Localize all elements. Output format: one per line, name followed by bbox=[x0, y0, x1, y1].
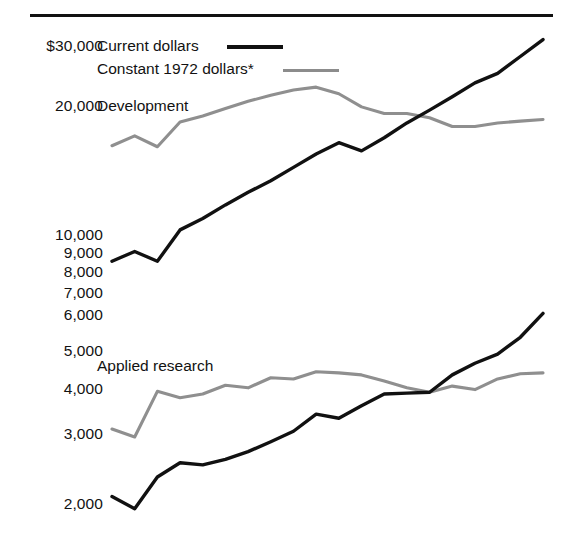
y-tick-7000: 7,000 bbox=[0, 285, 103, 301]
y-tick-2000: 2,000 bbox=[0, 496, 103, 512]
y-tick-5000: 5,000 bbox=[0, 343, 103, 359]
y-tick-3000: 3,000 bbox=[0, 426, 103, 442]
line-applied-current bbox=[112, 313, 543, 508]
legend-swatch-constant-dollars bbox=[283, 69, 339, 72]
y-tick-10000: 10,000 bbox=[0, 227, 103, 243]
y-tick-30000: $30,000 bbox=[0, 38, 103, 54]
y-tick-9000: 9,000 bbox=[0, 245, 103, 261]
y-tick-20000: 20,000 bbox=[0, 98, 103, 114]
legend-label-current-dollars: Current dollars bbox=[97, 38, 199, 54]
top-rule-divider bbox=[30, 14, 553, 17]
line-applied-constant bbox=[112, 372, 543, 437]
panel-label-development: Development bbox=[97, 98, 188, 114]
y-tick-6000: 6,000 bbox=[0, 307, 103, 323]
chart-figure: $30,000 20,000 10,000 9,000 8,000 7,000 … bbox=[0, 0, 563, 552]
y-tick-8000: 8,000 bbox=[0, 264, 103, 280]
y-tick-4000: 4,000 bbox=[0, 381, 103, 397]
panel-label-applied-research: Applied research bbox=[97, 358, 213, 374]
legend-label-constant-dollars: Constant 1972 dollars* bbox=[97, 61, 254, 77]
legend-swatch-current-dollars bbox=[227, 45, 283, 49]
